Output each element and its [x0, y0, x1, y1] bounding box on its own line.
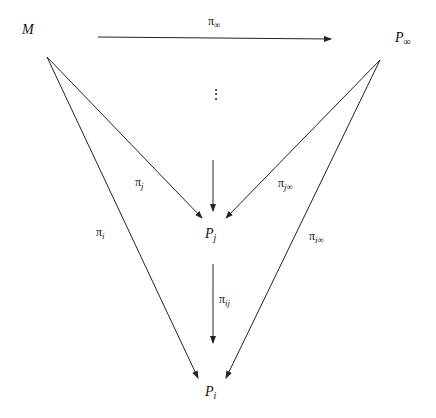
node-p-j-base: P [205, 226, 214, 241]
arrow-pi-inf [98, 37, 331, 39]
label-pi-j-inf-sub: j∞ [284, 182, 293, 192]
vertical-ellipsis: ⋮ [209, 86, 223, 103]
node-m: M [22, 22, 34, 38]
node-p-inf-sub: ∞ [404, 36, 411, 47]
arrow-pi-j [47, 57, 202, 218]
label-pi-ij-sub: ij [225, 298, 230, 308]
label-pi-j: πj [135, 175, 144, 191]
node-p-j-sub: j [214, 232, 217, 243]
label-pi-inf-sub: ∞ [214, 20, 220, 30]
diagram-canvas [0, 0, 436, 418]
node-p-i-sub: i [214, 390, 217, 401]
node-p-inf: P∞ [395, 30, 411, 47]
arrow-pi-i [47, 57, 198, 378]
label-pi-i-sub: i [102, 231, 105, 241]
label-pi-i: πi [96, 225, 105, 241]
arrow-pi-i-inf [226, 60, 380, 378]
label-pi-i-inf-sub: i∞ [315, 235, 324, 245]
label-pi-j-sub: j [141, 181, 144, 191]
node-m-label: M [22, 22, 34, 37]
label-pi-ij: πij [219, 292, 230, 308]
label-pi-j-inf: πj∞ [278, 176, 293, 192]
node-p-i-base: P [205, 384, 214, 399]
label-pi-i-inf: πi∞ [309, 229, 324, 245]
arrow-pi-j-inf [226, 60, 380, 218]
label-pi-inf: π∞ [208, 14, 220, 30]
node-p-i: Pi [205, 384, 216, 401]
node-p-j: Pj [205, 226, 216, 243]
node-p-inf-base: P [395, 30, 404, 45]
